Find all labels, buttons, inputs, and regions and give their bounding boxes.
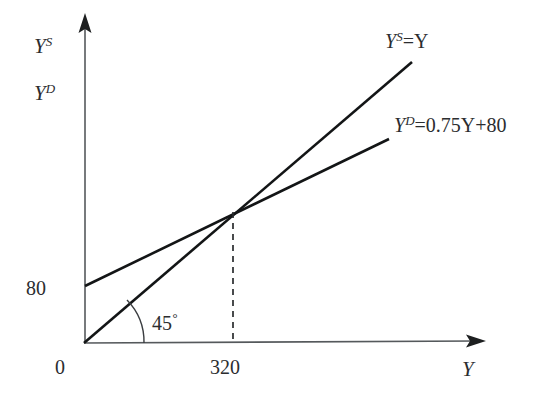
horizontal-axis-line (84, 341, 476, 343)
demand-line (85, 139, 389, 286)
supply-line-45deg (84, 62, 412, 343)
vertical-axis-supply-label: YS (34, 34, 53, 58)
demand-eq-rest: =0.75Y+80 (415, 114, 507, 136)
angle-value: 45 (152, 312, 172, 334)
demand-eq-sup: D (404, 113, 415, 128)
supply-eq-rest: =Y (403, 30, 429, 52)
vertical-axis-demand-sup: D (45, 81, 56, 96)
vertical-axis-supply-sup: S (46, 34, 53, 49)
x-equilibrium-tick-label: 320 (210, 356, 240, 378)
diagram-canvas: YS YD YS=Y YD=0.75Y+80 80 0 320 45° Y (0, 0, 560, 408)
supply-line-equation-label: YS=Y (385, 29, 428, 52)
origin-label: 0 (55, 356, 65, 378)
vertical-axis-demand-label: YD (34, 81, 56, 105)
keynesian-cross-figure: YS YD YS=Y YD=0.75Y+80 80 0 320 45° Y (0, 0, 560, 408)
angle-label-45-degrees: 45° (152, 310, 177, 334)
y-intercept-tick-label: 80 (26, 277, 46, 299)
angle-degree-symbol: ° (172, 310, 177, 325)
horizontal-axis-label: Y (462, 357, 476, 381)
demand-line-equation-label: YD=0.75Y+80 (394, 113, 507, 136)
angle-arc-45 (127, 300, 144, 343)
